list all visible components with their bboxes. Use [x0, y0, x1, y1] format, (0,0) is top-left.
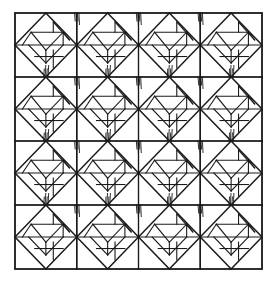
- vertex-tick: [172, 194, 173, 206]
- vertex-tick: [229, 197, 230, 205]
- vertex-tick: [44, 197, 45, 205]
- vertex-tick: [48, 130, 49, 142]
- vertex-tick: [77, 13, 78, 21]
- vertex-tick: [76, 141, 77, 153]
- vertex-tick: [200, 141, 201, 153]
- vertex-tick: [141, 13, 142, 25]
- vertex-tick: [202, 205, 203, 217]
- vertex-tick: [138, 13, 139, 25]
- vertex-tick: [75, 13, 76, 21]
- vertex-tick: [105, 133, 106, 141]
- vertex-tick: [45, 66, 46, 78]
- vertex-tick: [138, 141, 139, 153]
- vertex-tick: [47, 69, 48, 77]
- vertex-tick: [138, 77, 139, 89]
- vertex-tick: [169, 66, 170, 78]
- vertex-tick: [48, 66, 49, 78]
- vertex-tick: [75, 77, 76, 85]
- vertex-tick: [198, 205, 199, 213]
- vertex-tick: [45, 130, 46, 142]
- vertex-tick: [108, 133, 109, 141]
- vertex-tick: [200, 205, 201, 217]
- vertex-tick: [233, 130, 234, 142]
- vertex-tick: [76, 13, 77, 25]
- vertex-tick: [200, 13, 201, 25]
- vertex-tick: [48, 194, 49, 206]
- vertex-tick: [201, 77, 202, 85]
- vertex-tick: [47, 197, 48, 205]
- vertex-tick: [136, 205, 137, 213]
- vertex-tick: [107, 194, 108, 206]
- vertex-tick: [232, 133, 233, 141]
- quilt-pattern-svg: [0, 0, 276, 288]
- vertex-tick: [47, 133, 48, 141]
- vertex-tick: [200, 77, 201, 89]
- vertex-tick: [232, 69, 233, 77]
- vertex-tick: [141, 205, 142, 217]
- vertex-tick: [139, 13, 140, 21]
- vertex-tick: [75, 205, 76, 213]
- vertex-tick: [229, 69, 230, 77]
- vertex-tick: [230, 66, 231, 78]
- vertex-tick: [75, 141, 76, 149]
- vertex-tick: [79, 141, 80, 153]
- vertex-tick: [110, 66, 111, 78]
- vertex-tick: [167, 69, 168, 77]
- vertex-tick: [202, 13, 203, 25]
- vertex-tick: [107, 66, 108, 78]
- vertex-tick: [233, 194, 234, 206]
- vertex-tick: [198, 77, 199, 85]
- vertex-tick: [138, 205, 139, 217]
- vertex-tick: [230, 130, 231, 142]
- vertex-tick: [230, 194, 231, 206]
- vertex-tick: [44, 69, 45, 77]
- vertex-tick: [167, 197, 168, 205]
- vertex-tick: [79, 77, 80, 89]
- vertex-tick: [169, 194, 170, 206]
- vertex-tick: [139, 141, 140, 149]
- vertex-tick: [139, 77, 140, 85]
- vertex-tick: [77, 141, 78, 149]
- vertex-tick: [105, 197, 106, 205]
- vertex-tick: [110, 194, 111, 206]
- vertex-tick: [233, 66, 234, 78]
- vertex-tick: [105, 69, 106, 77]
- vertex-tick: [45, 194, 46, 206]
- vertex-tick: [141, 77, 142, 89]
- vertex-tick: [77, 77, 78, 85]
- vertex-tick: [169, 130, 170, 142]
- vertex-tick: [170, 133, 171, 141]
- vertex-tick: [170, 197, 171, 205]
- vertex-tick: [167, 133, 168, 141]
- vertex-tick: [202, 141, 203, 153]
- vertex-tick: [79, 205, 80, 217]
- quilt-figure: Patchwork Quilt Block Diagram: [0, 0, 276, 288]
- vertex-tick: [136, 77, 137, 85]
- vertex-tick: [232, 197, 233, 205]
- vertex-tick: [201, 205, 202, 213]
- vertex-tick: [172, 130, 173, 142]
- vertex-tick: [108, 69, 109, 77]
- vertex-tick: [79, 13, 80, 25]
- vertex-tick: [201, 13, 202, 21]
- vertex-tick: [198, 141, 199, 149]
- vertex-tick: [44, 133, 45, 141]
- vertex-tick: [108, 197, 109, 205]
- vertex-tick: [136, 13, 137, 21]
- vertex-tick: [141, 141, 142, 153]
- vertex-tick: [201, 141, 202, 149]
- vertex-tick: [76, 77, 77, 89]
- vertex-tick: [76, 205, 77, 217]
- vertex-tick: [202, 77, 203, 89]
- vertex-tick: [229, 133, 230, 141]
- vertex-tick: [136, 141, 137, 149]
- vertex-tick: [139, 205, 140, 213]
- vertex-tick: [170, 69, 171, 77]
- vertex-tick: [172, 66, 173, 78]
- vertex-tick: [198, 13, 199, 21]
- vertex-tick: [107, 130, 108, 142]
- vertex-tick: [110, 130, 111, 142]
- vertex-tick: [77, 205, 78, 213]
